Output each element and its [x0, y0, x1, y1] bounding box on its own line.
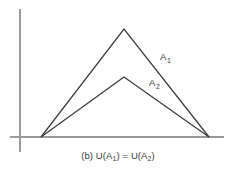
series-label-a1-subscript: 1 — [167, 57, 171, 64]
series-label-a2-base: A — [149, 77, 156, 88]
figure-container: A1 A2 (b) U(A1) = U(A2) — [0, 0, 236, 170]
series-line-a2 — [41, 77, 209, 137]
series-line-a1 — [41, 29, 209, 137]
caption-close-paren: ) — [152, 150, 155, 161]
plot-area: A1 A2 — [0, 0, 236, 170]
series-label-a1-base: A — [160, 51, 167, 62]
caption-index: (b) — [81, 150, 96, 161]
caption-subscript-1: 1 — [113, 155, 117, 162]
caption-subscript-2: 2 — [148, 155, 152, 162]
series-label-a1: A1 — [160, 51, 171, 64]
caption-u1-open: U(A — [96, 150, 113, 161]
figure-caption: (b) U(A1) = U(A2) — [0, 150, 236, 161]
series-label-a2-subscript: 2 — [156, 83, 160, 90]
series-label-a2: A2 — [149, 77, 160, 90]
caption-equals: ) = U(A — [117, 150, 148, 161]
